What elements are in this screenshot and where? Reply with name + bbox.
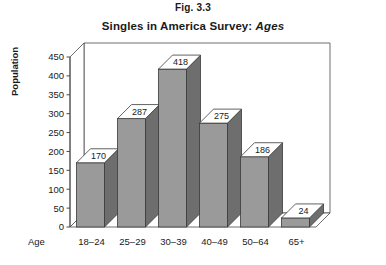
bar-value-label: 186 (255, 145, 270, 155)
bar-column: 418 (159, 55, 201, 227)
y-axis-tick-label: 350 (48, 89, 64, 100)
bar-column: 287 (118, 105, 160, 227)
bar-side-face (269, 143, 283, 227)
bar-chart-plot: 0501001502002503003504004501702874182751… (0, 0, 386, 265)
x-axis-category-label: 30–39 (160, 236, 186, 247)
x-axis-category-label: 65+ (288, 236, 305, 247)
bar-side-face (187, 55, 201, 227)
bar-column: 275 (200, 109, 242, 227)
bar-value-label: 418 (173, 57, 188, 67)
bar-value-label: 24 (298, 206, 308, 216)
y-axis-tick-label: 50 (53, 203, 64, 214)
bar-front-face (77, 163, 105, 227)
x-axis-category-label: 40–49 (201, 236, 227, 247)
bar-column: 186 (241, 143, 283, 227)
y-axis-tick-label: 300 (48, 108, 64, 119)
bar-front-face (282, 218, 310, 227)
bar-value-label: 275 (214, 111, 229, 121)
bar-value-label: 170 (91, 151, 106, 161)
figure-container: Fig. 3.3 Singles in America Survey: Ages… (0, 0, 386, 265)
x-axis-category-label: 18–24 (78, 236, 104, 247)
bar-front-face (200, 123, 228, 227)
bar-front-face (118, 119, 146, 227)
bar-side-face (228, 109, 242, 227)
x-axis-category-label: 25–29 (119, 236, 145, 247)
y-axis-tick-label: 100 (48, 184, 64, 195)
y-axis-tick-label: 0 (59, 221, 64, 232)
bar-side-face (146, 105, 160, 227)
bar-front-face (241, 157, 269, 227)
y-axis-tick-label: 450 (48, 51, 64, 62)
y-axis-tick-label: 250 (48, 127, 64, 138)
bar-front-face (159, 69, 187, 227)
x-axis-title: Age (28, 236, 45, 247)
y-axis-tick-label: 150 (48, 165, 64, 176)
x-axis-category-label: 50–64 (242, 236, 268, 247)
y-axis-tick-label: 200 (48, 146, 64, 157)
y-axis-tick-label: 400 (48, 70, 64, 81)
bar-column: 170 (77, 149, 119, 227)
bar-value-label: 287 (132, 107, 147, 117)
